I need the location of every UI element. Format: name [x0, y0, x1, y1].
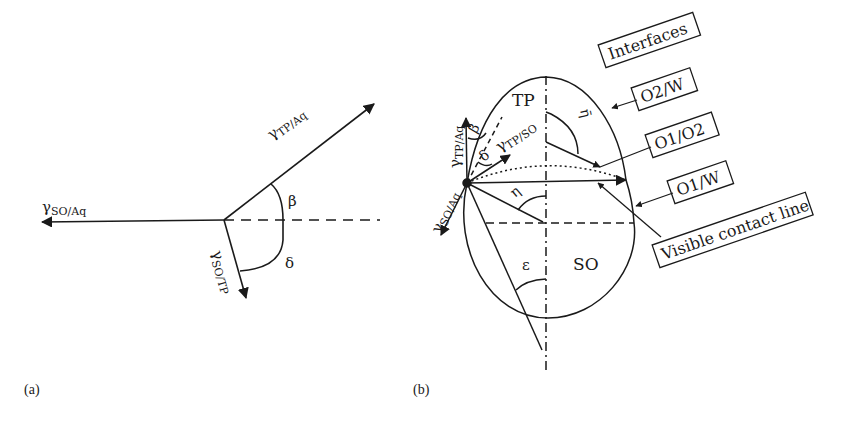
figure-canvas: γSO/Aq γTP/Aq γSO/TP β δ (a) [0, 0, 856, 424]
angle-epsilon-arc [516, 279, 546, 290]
label-gamma-so-aq: γSO/Aq [42, 198, 86, 218]
leader-o1-o2 [600, 147, 651, 167]
label-delta: δ [285, 254, 294, 272]
leader-o1-w [636, 193, 673, 206]
interfaces-legend: Interfaces O2/W O1/O2 O1/W Visible conta… [598, 12, 813, 267]
panel-b-label: (b) [413, 382, 430, 398]
panel-a-labels: γSO/Aq γTP/Aq γSO/TP β δ [42, 103, 309, 296]
angle-eta-bar-arc [546, 112, 578, 154]
angle-delta-arc [240, 220, 283, 271]
angle-beta-arc [271, 184, 283, 220]
so-sphere-outline [464, 180, 635, 318]
eta-bar-line [546, 142, 600, 167]
leader-o2-w [612, 100, 637, 108]
label-gamma-tp-so-b: γTP/SO [492, 116, 540, 157]
label-beta: β [288, 192, 297, 210]
label-delta-b: δ [476, 147, 493, 165]
label-epsilon: ε [522, 256, 530, 274]
contact-chord [467, 180, 626, 183]
label-gamma-tp-aq: γTP/Aq [264, 103, 310, 144]
legend-item-o1-o2: O1/O2 [645, 112, 719, 157]
label-gamma-so-aq-b: γSO/Aq [427, 188, 463, 237]
label-eta-bar: η̄ [577, 107, 594, 119]
angle-eta-arc [518, 196, 546, 210]
vector-so-aq [42, 220, 224, 222]
label-gamma-so-tp: γSO/TP [206, 248, 238, 296]
epsilon-line [467, 183, 542, 350]
label-gamma-tp-aq-b: γTP/Aq [446, 126, 466, 168]
label-so-region: SO [573, 254, 599, 274]
svg-text:Visible contact line: Visible contact line [658, 195, 812, 264]
panel-b [441, 76, 635, 370]
label-eta: η [507, 183, 524, 201]
eta-line [467, 183, 543, 222]
legend-title-box: Interfaces [598, 12, 700, 67]
contact-point [463, 179, 471, 187]
panel-a-label: (a) [24, 382, 40, 398]
legend-item-o2-w: O2/W [631, 68, 697, 111]
label-tp-region: TP [512, 90, 535, 110]
legend-item-o1-w: O1/W [667, 161, 733, 204]
